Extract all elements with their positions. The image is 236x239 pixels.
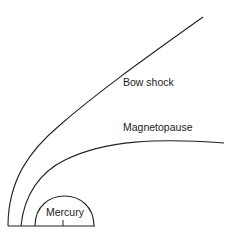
magnetopause-label: Magnetopause xyxy=(123,122,192,133)
bow-shock-label: Bow shock xyxy=(123,77,174,88)
mercury-label: Mercury xyxy=(46,207,84,218)
magnetosphere-diagram xyxy=(0,0,236,239)
